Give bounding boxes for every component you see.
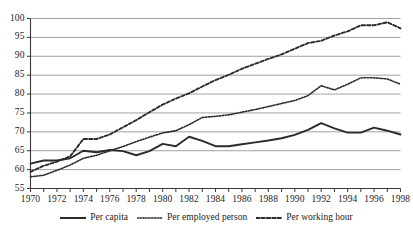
line-chart: 556065707580859095100 197019721974197619… (0, 0, 413, 230)
legend-item-2[interactable]: Per employed person (137, 213, 247, 223)
y-tick-label: 60 (0, 165, 25, 175)
legend-swatch-dotted (137, 214, 163, 222)
data-series-layer (31, 22, 401, 177)
y-tick-label: 85 (0, 70, 25, 80)
legend-swatch-dashed (256, 214, 282, 222)
y-tick-label: 80 (0, 89, 25, 99)
y-tick-label: 65 (0, 146, 25, 156)
chart-legend: Per capitaPer employed personPer working… (0, 209, 413, 227)
series-line-2 (31, 78, 401, 177)
legend-label: Per employed person (167, 213, 247, 223)
y-tick-label: 70 (0, 127, 25, 137)
y-tick-label: 100 (0, 14, 25, 24)
y-tick-label: 75 (0, 108, 25, 118)
axis-lines (31, 19, 401, 189)
legend-label: Per working hour (286, 213, 353, 223)
x-tick-label: 1998 (381, 195, 413, 205)
legend-label: Per capita (90, 213, 128, 223)
y-tick-label: 90 (0, 51, 25, 61)
legend-item-1[interactable]: Per capita (60, 213, 128, 223)
legend-swatch-solid (60, 214, 86, 222)
legend-item-3[interactable]: Per working hour (256, 213, 353, 223)
y-tick-label: 55 (0, 184, 25, 194)
series-line-3 (31, 22, 401, 172)
y-tick-label: 95 (0, 32, 25, 42)
